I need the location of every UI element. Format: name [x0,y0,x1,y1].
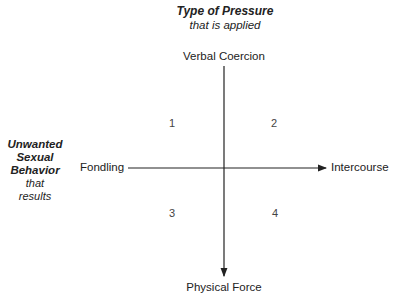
label-intercourse: Intercourse [331,161,389,173]
horizontal-axis-title-line-2: Sexual [5,151,65,164]
quadrant-1: 1 [169,117,175,129]
vertical-axis-title-sub: that is applied [150,18,300,32]
vertical-axis-title-main: Type of Pressure [150,4,300,18]
vertical-axis-title: Type of Pressure that is applied [150,4,300,32]
horizontal-axis-subtitle-line-2: results [5,190,65,203]
horizontal-axis-title-line-1: Unwanted [5,138,65,151]
horizontal-axis-subtitle-line-1: that [5,177,65,190]
label-fondling: Fondling [80,161,124,173]
label-verbal-coercion: Verbal Coercion [170,50,278,62]
quadrant-4: 4 [272,207,278,219]
quadrant-2: 2 [271,117,277,129]
label-physical-force: Physical Force [170,281,278,293]
horizontal-axis-title-line-3: Behavior [5,164,65,177]
horizontal-axis-title: Unwanted Sexual Behavior that results [5,138,65,203]
quadrant-3: 3 [169,207,175,219]
